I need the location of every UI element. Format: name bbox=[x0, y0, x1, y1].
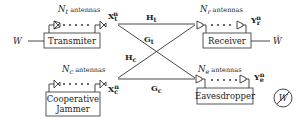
channel-label-gc: Gc bbox=[151, 83, 162, 95]
no-message-icon: W bbox=[274, 89, 292, 107]
antenna-dots bbox=[63, 83, 89, 85]
jammer-signal-label: Xcn bbox=[108, 83, 119, 96]
jammer-node: Nc antennas Cooperative Jammer Xcn bbox=[46, 64, 119, 116]
channel-label-gt: Gt bbox=[144, 34, 154, 46]
antenna-icon bbox=[197, 21, 206, 33]
eavesdropper-label: Eavesdropper bbox=[195, 91, 256, 101]
antenna-icon bbox=[237, 21, 246, 33]
antenna-icon bbox=[196, 75, 205, 88]
antenna-dots bbox=[63, 24, 89, 26]
receiver-antennas-label: Nr antennas bbox=[199, 4, 243, 16]
mimo-wiretap-diagram: Ht Gt Hc Gc Nt antennas Transmiter W Xtn… bbox=[0, 0, 304, 119]
antenna-icon bbox=[95, 21, 106, 33]
transmitter-node: Nt antennas Transmiter W Xtn bbox=[13, 4, 118, 48]
antenna-icon bbox=[49, 80, 60, 92]
transmitter-label: Transmiter bbox=[48, 36, 97, 46]
antenna-icon bbox=[95, 80, 106, 92]
antenna-icon bbox=[49, 21, 60, 33]
antenna-dots bbox=[211, 79, 237, 81]
receive-signal-label: Yrn bbox=[250, 14, 261, 27]
channel-label-hc: Hc bbox=[125, 52, 137, 64]
jammer-label-line1: Cooperative bbox=[47, 94, 99, 104]
channel-label-ht: Ht bbox=[146, 12, 157, 24]
receiver-label: Receiver bbox=[208, 36, 247, 46]
eavesdropper-signal-label: Yen bbox=[253, 71, 265, 84]
antenna-dots bbox=[211, 24, 231, 26]
transmit-signal-label: Xtn bbox=[108, 10, 118, 23]
message-estimate-label: Ŵ bbox=[273, 35, 283, 46]
receiver-node: Nr antennas Receiver Ŵ Yrn bbox=[197, 4, 283, 48]
eavesdropper-node: Ne antennas Eavesdropper Yen W bbox=[195, 64, 292, 107]
transmitter-antennas-label: Nt antennas bbox=[57, 4, 100, 16]
antenna-icon bbox=[240, 75, 249, 88]
eavesdropper-antennas-label: Ne antennas bbox=[197, 64, 241, 76]
jammer-antennas-label: Nc antennas bbox=[61, 64, 105, 76]
message-input-label: W bbox=[13, 36, 23, 46]
jammer-label-line2: Jammer bbox=[55, 104, 91, 114]
